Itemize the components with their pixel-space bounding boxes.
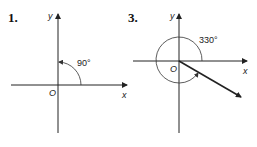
figure-number: 1. — [8, 10, 18, 25]
y-axis-label: y — [169, 11, 175, 21]
figure-1: 1. y x O 90° — [8, 10, 127, 133]
y-axis-label: y — [47, 11, 53, 21]
origin-label: O — [170, 64, 177, 74]
x-axis-label: x — [121, 90, 127, 100]
origin-label: O — [49, 88, 56, 98]
angle-diagrams: 1. y x O 90° 3. y x O 330° — [0, 0, 257, 147]
angle-label: 90° — [77, 58, 91, 68]
figure-3: 3. y x O 330° — [128, 10, 248, 133]
terminal-ray — [179, 61, 241, 97]
angle-label: 330° — [199, 35, 218, 45]
x-axis-label: x — [242, 66, 248, 76]
figure-number: 3. — [128, 10, 138, 25]
